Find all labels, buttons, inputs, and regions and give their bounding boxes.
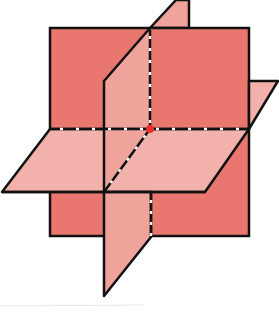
side-plane-lower [104, 192, 151, 296]
baseline [0, 305, 145, 306]
horizontal-plane-right-flap [249, 81, 278, 129]
side-plane-top-back [150, 0, 189, 28]
three-planes-diagram [0, 0, 279, 312]
planes-figure [0, 0, 279, 312]
intersection-point [146, 125, 154, 133]
